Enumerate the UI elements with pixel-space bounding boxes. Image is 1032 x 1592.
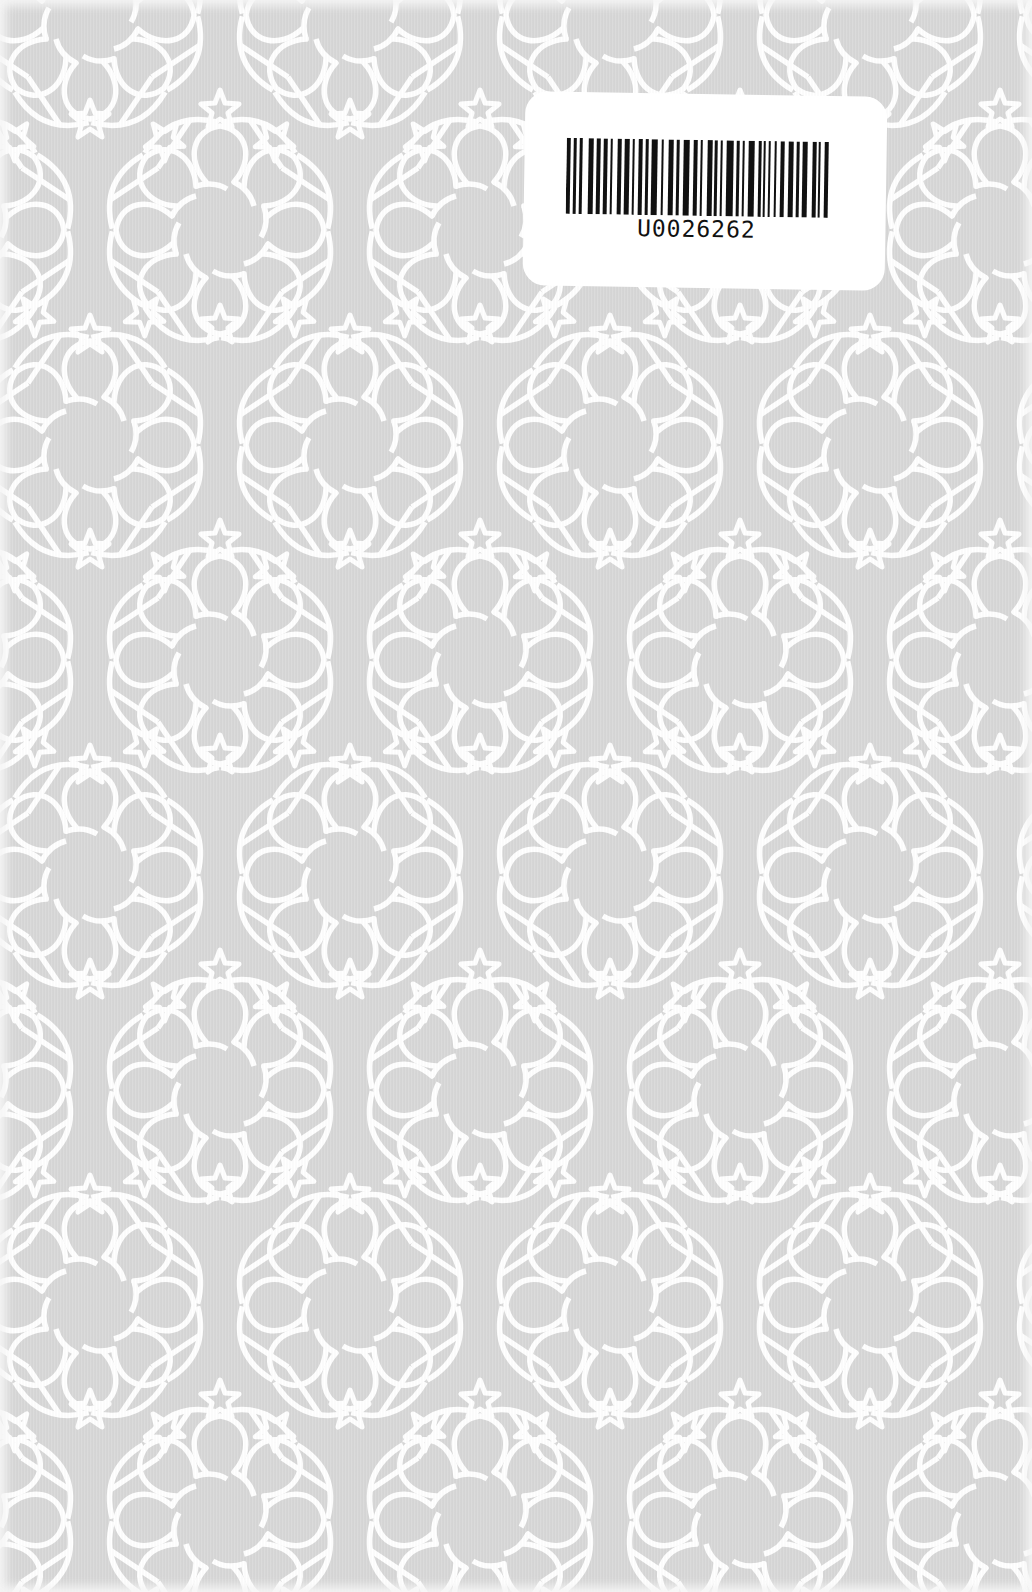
barcode-label: U0026262 <box>522 91 887 291</box>
book-back-cover: U0026262 <box>0 0 1032 1592</box>
barcode-icon <box>566 138 839 218</box>
barcode-number: U0026262 <box>515 213 877 245</box>
